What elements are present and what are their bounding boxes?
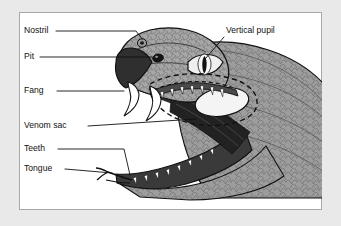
label-teeth: Teeth (24, 143, 45, 153)
label-venom-sac: Venom sac (24, 120, 67, 130)
label-nostril: Nostril (24, 25, 48, 35)
label-pit: Pit (24, 51, 35, 61)
nostril (137, 39, 146, 47)
label-vertical-pupil: Vertical pupil (226, 25, 275, 35)
snake-anatomy-figure: Nostril Pit Fang Venom sac Teeth Tongue … (0, 0, 341, 226)
label-fang: Fang (24, 85, 44, 95)
label-tongue: Tongue (24, 163, 52, 173)
